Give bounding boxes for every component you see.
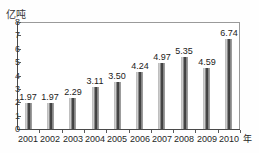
x-axis-tick-label: 2007	[150, 134, 174, 145]
x-axis-tick-mark	[129, 130, 130, 133]
x-axis-tick-label: 2003	[61, 134, 85, 145]
bar	[25, 103, 32, 129]
x-axis-tick-label: 2004	[83, 134, 107, 145]
bar-value-label: 3.50	[104, 71, 130, 81]
y-axis-tick-mark	[18, 62, 21, 63]
x-axis-tick-label: 2009	[195, 134, 219, 145]
x-axis-tick-mark	[218, 130, 219, 133]
x-axis-tick-mark	[240, 130, 241, 133]
bar-value-label: 5.35	[171, 46, 197, 56]
y-axis-tick-mark	[18, 89, 21, 90]
bar-value-label: 6.74	[216, 28, 242, 38]
x-axis-tick-mark	[62, 130, 63, 133]
bar	[114, 82, 121, 129]
x-axis-tick-mark	[195, 130, 196, 133]
bar	[203, 68, 210, 129]
x-axis-tick-mark	[39, 130, 40, 133]
x-axis-tick-mark	[173, 130, 174, 133]
chart-title-remnant	[133, 0, 229, 7]
y-axis-tick-mark	[18, 22, 21, 23]
bar-value-label: 4.24	[127, 61, 153, 71]
y-axis-tick-mark	[18, 35, 21, 36]
bar-value-label: 2.29	[60, 87, 86, 97]
y-axis-tick-mark	[18, 76, 21, 77]
y-axis-tick-label: 0	[12, 124, 20, 134]
bar	[69, 98, 76, 129]
bar	[181, 57, 188, 129]
x-axis-tick-mark	[84, 130, 85, 133]
bar	[92, 87, 99, 129]
x-axis-tick-label: 2010	[217, 134, 241, 145]
bar	[47, 103, 54, 129]
bar-value-label: 4.59	[194, 57, 220, 67]
x-axis-tick-label: 2002	[38, 134, 62, 145]
x-axis-tick-label: 2006	[128, 134, 152, 145]
x-axis-tick-label: 2001	[16, 134, 40, 145]
x-axis-unit-label: 年	[243, 134, 252, 145]
chart-screenshot: 亿吨 012345678 200120022003200420052006200…	[0, 0, 259, 153]
y-axis-tick-mark	[18, 116, 21, 117]
bar	[225, 39, 232, 129]
bar	[136, 72, 143, 129]
x-axis-tick-mark	[106, 130, 107, 133]
x-axis-tick-label: 2005	[105, 134, 129, 145]
y-axis-tick-mark	[18, 102, 21, 103]
x-axis-tick-label: 2008	[172, 134, 196, 145]
bar	[158, 63, 165, 129]
x-axis-tick-mark	[151, 130, 152, 133]
y-axis-tick-mark	[18, 49, 21, 50]
